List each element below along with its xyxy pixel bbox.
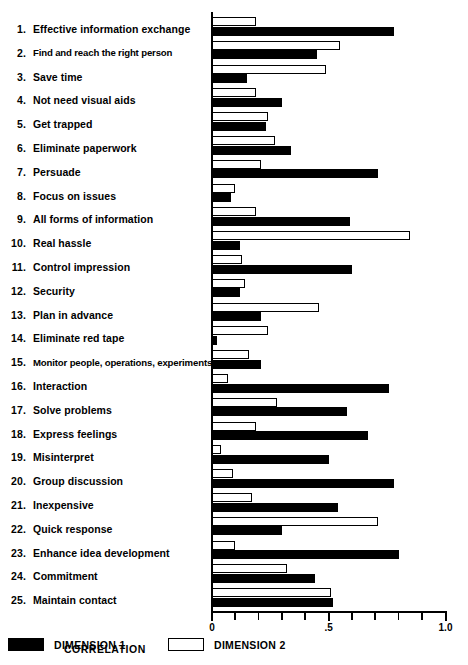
category-label-row: 22.Quick response: [0, 518, 205, 540]
category-number: 12.: [0, 285, 26, 297]
bar-dimension-1: [212, 360, 261, 369]
category-label-row: 6.Eliminate paperwork: [0, 137, 205, 159]
category-label-row: 8.Focus on issues: [0, 185, 205, 207]
category-number: 18.: [0, 428, 26, 440]
bar-dimension-2: [212, 493, 252, 502]
bar-dimension-2: [212, 231, 410, 240]
category-label-row: 5.Get trapped: [0, 113, 205, 135]
category-number: 5.: [0, 118, 26, 130]
bar-dimension-2: [212, 303, 319, 312]
category-name: Plan in advance: [33, 309, 113, 321]
bar-dimension-1: [212, 384, 389, 393]
category-number: 14.: [0, 332, 26, 344]
category-name: Express feelings: [33, 428, 117, 440]
category-name: Interaction: [33, 380, 87, 392]
bar-dimension-1: [212, 431, 368, 440]
category-number: 23.: [0, 547, 26, 559]
category-label-row: 2.Find and reach the right person: [0, 42, 205, 64]
x-axis-tick: [281, 613, 283, 620]
bar-dimension-2: [212, 279, 245, 288]
bar-dimension-1: [212, 169, 378, 178]
category-number: 24.: [0, 570, 26, 582]
bar-dimension-1: [212, 98, 282, 107]
plot-area: 0.51.0: [211, 0, 468, 665]
category-label-row: 16.Interaction: [0, 375, 205, 397]
category-label-row: 17.Solve problems: [0, 399, 205, 421]
bar-dimension-1: [212, 193, 231, 202]
bar-dimension-1: [212, 598, 333, 607]
bar-dimension-1: [212, 241, 240, 250]
category-number: 6.: [0, 142, 26, 154]
category-name: Enhance idea development: [33, 547, 170, 559]
category-label-row: 18.Express feelings: [0, 423, 205, 445]
bar-dimension-1: [212, 550, 399, 559]
category-label-row: 15.Monitor people, operations, experimen…: [0, 351, 205, 373]
bar-dimension-1: [212, 122, 266, 131]
category-label-row: 3.Save time: [0, 66, 205, 88]
bar-dimension-2: [212, 255, 242, 264]
bar-dimension-1: [212, 407, 347, 416]
category-number: 11.: [0, 261, 26, 273]
filled-black-swatch-icon: [8, 638, 44, 651]
bar-dimension-2: [212, 112, 268, 121]
category-number: 2.: [0, 47, 26, 59]
bar-dimension-1: [212, 336, 217, 345]
category-name: Security: [33, 285, 75, 297]
category-name: Solve problems: [33, 404, 112, 416]
category-number: 15.: [0, 356, 26, 368]
category-number: 7.: [0, 166, 26, 178]
x-axis-tick: [234, 613, 236, 620]
bar-dimension-2: [212, 136, 275, 145]
x-axis-tick: [421, 613, 423, 620]
bar-dimension-2: [212, 469, 233, 478]
chart-legend: DIMENSION 1 DIMENSION 2: [8, 638, 408, 658]
category-number: 25.: [0, 594, 26, 606]
category-label-row: 11.Control impression: [0, 256, 205, 278]
category-name: Eliminate paperwork: [33, 142, 137, 154]
legend-item-dimension-1: DIMENSION 1: [8, 638, 126, 651]
x-axis-tick: [258, 613, 260, 620]
category-label-row: 19.Misinterpret: [0, 446, 205, 468]
category-name: Effective information exchange: [33, 23, 190, 35]
bar-dimension-2: [212, 184, 235, 193]
category-name: Find and reach the right person: [33, 47, 172, 58]
category-number: 10.: [0, 237, 26, 249]
category-number: 19.: [0, 451, 26, 463]
category-number: 3.: [0, 71, 26, 83]
category-number: 8.: [0, 190, 26, 202]
category-number: 1.: [0, 23, 26, 35]
bar-dimension-2: [212, 350, 249, 359]
bar-dimension-2: [212, 326, 268, 335]
x-axis-tick: [351, 613, 353, 620]
bar-dimension-2: [212, 88, 256, 97]
bar-dimension-2: [212, 588, 331, 597]
bar-dimension-1: [212, 574, 315, 583]
category-label-row: 7.Persuade: [0, 161, 205, 183]
category-name: Misinterpret: [33, 451, 94, 463]
x-axis-tick-label: 0: [209, 622, 215, 633]
category-number: 9.: [0, 213, 26, 225]
category-name: Commitment: [33, 570, 98, 582]
bar-dimension-2: [212, 160, 261, 169]
x-axis-tick: [398, 613, 400, 620]
category-label-row: 10.Real hassle: [0, 232, 205, 254]
legend-item-dimension-2: DIMENSION 2: [168, 638, 286, 651]
category-label-row: 12.Security: [0, 280, 205, 302]
bar-dimension-2: [212, 422, 256, 431]
category-label-row: 14.Eliminate red tape: [0, 327, 205, 349]
category-label-row: 9.All forms of information: [0, 208, 205, 230]
x-axis-tick-label: .5: [325, 622, 333, 633]
correlation-bar-chart: 1.Effective information exchange2.Find a…: [0, 0, 468, 665]
bar-dimension-1: [212, 526, 282, 535]
category-number: 13.: [0, 309, 26, 321]
bar-dimension-1: [212, 455, 329, 464]
category-number: 4.: [0, 94, 26, 106]
category-number: 20.: [0, 475, 26, 487]
category-name: Maintain contact: [33, 594, 117, 606]
category-number: 17.: [0, 404, 26, 416]
legend-label-dimension-2: DIMENSION 2: [214, 639, 286, 651]
category-name: Eliminate red tape: [33, 332, 124, 344]
x-axis-tick: [374, 613, 376, 620]
category-name: Get trapped: [33, 118, 92, 130]
bar-dimension-1: [212, 27, 394, 36]
